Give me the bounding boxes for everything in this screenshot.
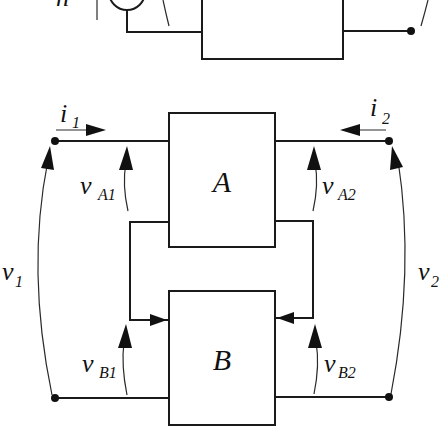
voltage-v2: v 2 bbox=[390, 146, 439, 394]
i1-label: i bbox=[60, 99, 67, 128]
voltage-va1: v A1 bbox=[80, 146, 133, 211]
vb2-arc bbox=[314, 342, 318, 394]
i1-subscript: 1 bbox=[72, 114, 80, 131]
vb2-subscript: B2 bbox=[338, 364, 356, 381]
va1-subscript: A1 bbox=[97, 186, 116, 203]
v2-arc bbox=[391, 160, 405, 394]
va1-arrow-icon bbox=[119, 146, 133, 170]
left-interconnect-wire bbox=[130, 222, 169, 320]
vb1-arc bbox=[123, 342, 127, 395]
vb1-subscript: B1 bbox=[99, 364, 117, 381]
v2-label: v bbox=[418, 257, 430, 286]
v1-arrow-icon bbox=[41, 146, 54, 170]
top-voltage-arc-right bbox=[421, 0, 428, 26]
voltage-v1: v 1 bbox=[2, 146, 54, 395]
v1-arc bbox=[38, 160, 52, 395]
left-interconnect-arrow-icon bbox=[150, 314, 167, 326]
top-partial-label: n bbox=[56, 0, 69, 12]
port2-top-terminal bbox=[385, 137, 393, 145]
voltage-vb2: v B2 bbox=[308, 324, 356, 394]
v1-subscript: 1 bbox=[15, 273, 23, 290]
top-partial-circuit: n bbox=[56, 0, 428, 59]
two-port-series-diagram: n A B i 1 i 2 v bbox=[0, 0, 446, 436]
v2-arrow-icon bbox=[390, 146, 403, 170]
i2-subscript: 2 bbox=[382, 110, 390, 127]
port1-top-terminal bbox=[51, 137, 59, 145]
i2-arrow-icon bbox=[340, 124, 360, 136]
v2-subscript: 2 bbox=[431, 273, 439, 290]
va2-arrow-icon bbox=[307, 146, 321, 170]
top-voltage-arc-mid bbox=[163, 0, 169, 26]
source-circle-icon bbox=[109, 0, 145, 10]
right-interconnect-arrow-icon bbox=[277, 312, 294, 324]
i2-label: i bbox=[370, 93, 377, 122]
voltage-vb1: v B1 bbox=[82, 324, 132, 395]
va2-subscript: A2 bbox=[337, 186, 356, 203]
block-a-label: A bbox=[211, 165, 232, 198]
current-i2: i 2 bbox=[340, 93, 390, 136]
current-i1: i 1 bbox=[56, 99, 106, 136]
right-interconnect-wire bbox=[275, 221, 313, 318]
vb1-label: v bbox=[82, 349, 94, 378]
va2-label: v bbox=[322, 171, 334, 200]
block-b-label: B bbox=[213, 343, 231, 376]
port2-bottom-terminal bbox=[385, 393, 393, 401]
v1-label: v bbox=[2, 257, 14, 286]
port1-bottom-terminal bbox=[51, 394, 59, 402]
top-right-terminal bbox=[407, 27, 415, 35]
top-block bbox=[202, 0, 343, 59]
vb1-arrow-icon bbox=[118, 324, 132, 348]
vb2-arrow-icon bbox=[308, 324, 322, 348]
vb2-label: v bbox=[324, 349, 336, 378]
i1-arrow-icon bbox=[86, 124, 106, 136]
voltage-va2: v A2 bbox=[307, 146, 356, 211]
va1-label: v bbox=[80, 171, 92, 200]
top-left-wire bbox=[127, 10, 202, 32]
